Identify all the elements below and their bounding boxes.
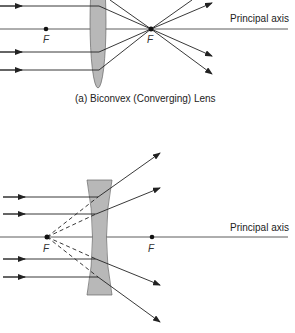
principal-axis-label-b: Principal axis (230, 222, 289, 233)
focal-point-left-a (44, 27, 49, 32)
focus-label-right-a: F (147, 34, 153, 45)
biconcave-lens-diagram (0, 153, 288, 322)
principal-axis-label-a: Principal axis (230, 13, 289, 24)
convex-lens (90, 0, 106, 88)
focus-label-left-a: F (43, 34, 49, 45)
caption-a: (a) Biconvex (Converging) Lens (75, 93, 216, 104)
focus-label-left-b: F (43, 243, 49, 254)
lens-diagrams (0, 0, 295, 333)
focal-point-right-b (150, 235, 155, 240)
focus-label-right-b: F (148, 243, 154, 254)
focal-point-left-b (45, 235, 50, 240)
focal-point-right-a (149, 27, 154, 32)
